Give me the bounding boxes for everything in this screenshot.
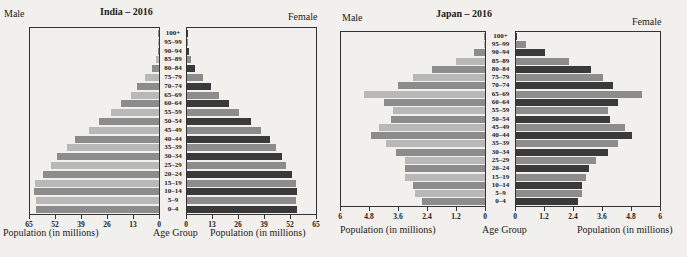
age-group-label: 0–4 [160,205,186,213]
male-bar [405,157,485,164]
x-axis-label-center: Age Group [482,224,527,235]
female-bar [187,100,229,107]
female-bar [187,92,219,99]
male-bar [405,174,485,181]
male-bar [158,48,159,55]
female-tick [544,206,545,211]
age-group-label: 20–24 [160,170,186,178]
male-tick [81,214,82,219]
female-bar [187,127,261,134]
age-group-label: 40–44 [160,135,186,143]
male-tick-label: 1.2 [451,212,460,221]
male-bar [121,100,159,107]
age-group-label: 70–74 [160,82,186,90]
female-tick-label: 0 [513,212,517,221]
male-bar [386,140,485,147]
male-bar [405,165,485,172]
female-tick-label: 4.8 [626,212,635,221]
age-group-label: 15–19 [160,179,186,187]
male-tick [456,206,457,211]
female-tick-label: 2.4 [568,212,577,221]
female-bar [187,136,270,143]
female-tick [316,214,317,219]
female-tick [573,206,574,211]
male-bar [152,65,159,72]
age-group-label: 20–24 [486,164,515,172]
male-tick-label: 6 [338,212,342,221]
female-bar [187,109,239,116]
female-bar [516,74,603,81]
male-bar [89,127,159,134]
female-label: Female [632,16,661,27]
male-tick [369,206,370,211]
female-bar [516,58,569,65]
male-bar [57,153,159,160]
age-group-label: 95–99 [486,40,515,48]
age-group-label: 35–39 [486,139,515,147]
female-bar [187,39,188,46]
male-bar [371,132,485,139]
male-bar [99,118,159,125]
male-tick-label: 4.8 [364,212,373,221]
age-group-label: 75–79 [486,73,515,81]
x-axis-label-right: Population (in millions) [577,224,673,235]
male-tick-label: 3.6 [393,212,402,221]
male-bar [131,92,159,99]
age-group-label: 95–99 [160,38,186,46]
age-group-label: 60–64 [486,98,515,106]
age-group-label: 25–29 [486,156,515,164]
male-bar [43,171,159,178]
female-bar [516,99,618,106]
male-bar [364,91,485,98]
male-x-axis [29,214,160,215]
female-bar [516,198,578,205]
female-tick-label: 1.2 [539,212,548,221]
age-group-label: 15–19 [486,173,515,181]
male-tick [133,214,134,219]
female-bar [187,162,286,169]
male-tick [159,214,160,219]
age-group-label: 80–84 [486,65,515,73]
age-group-label: 10–14 [486,181,515,189]
female-label: Female [288,11,317,22]
female-tick [515,206,516,211]
male-bar [391,116,485,123]
female-bar [516,182,582,189]
chart-title: India – 2016 [100,6,153,17]
age-group-label: 50–54 [486,115,515,123]
female-bar [516,107,608,114]
male-bar [51,162,159,169]
male-bar [413,182,486,189]
male-tick [398,206,399,211]
male-tick [340,206,341,211]
male-bar [474,49,485,56]
male-bar [384,99,486,106]
female-bar [187,188,297,195]
male-tick [29,214,30,219]
female-bar [516,49,545,56]
male-bar [379,124,485,131]
female-tick [660,206,661,211]
female-bar [187,180,296,187]
age-group-label: 90–94 [160,47,186,55]
age-group-label: 55–59 [160,108,186,116]
age-group-label: 30–34 [486,148,515,156]
male-bar [34,188,159,195]
age-group-label: 45–49 [486,123,515,131]
male-x-axis [340,206,486,207]
female-bar [187,118,251,125]
age-group-label: 90–94 [486,48,515,56]
age-group-label: 55–59 [486,106,515,114]
male-bar [158,39,159,46]
age-group-label: 35–39 [160,143,186,151]
age-group-label: 85–89 [486,57,515,65]
male-bar [398,82,485,89]
female-bar [516,41,526,48]
female-bar [187,48,189,55]
age-group-label: 40–44 [486,131,515,139]
male-bar [36,206,159,213]
male-tick [107,214,108,219]
male-bar [484,33,485,40]
female-bar [516,157,596,164]
female-bar [187,144,276,151]
